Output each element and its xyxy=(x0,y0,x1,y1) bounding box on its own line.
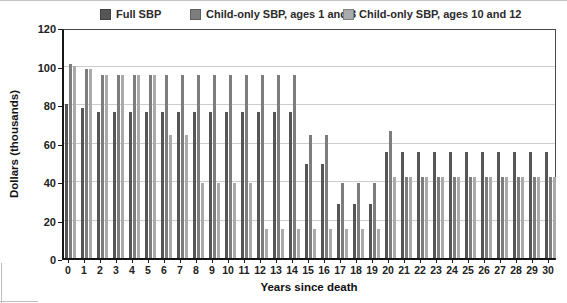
bar-year24-series0 xyxy=(449,152,452,258)
bar-year13-series2 xyxy=(281,229,284,258)
x-tick-mark-27 xyxy=(500,260,501,263)
bar-year29-series2 xyxy=(537,177,540,258)
bar-year5-series1 xyxy=(149,75,152,258)
bar-year9-series0 xyxy=(209,112,212,258)
y-tick-label-20: 20 xyxy=(24,216,56,228)
bar-year20-series0 xyxy=(385,152,388,258)
legend-item-child-10-12: Child-only SBP, ages 10 and 12 xyxy=(343,7,521,21)
bar-year16-series2 xyxy=(329,229,332,258)
bar-year15-series2 xyxy=(313,229,316,258)
x-tick-mark-23 xyxy=(436,260,437,263)
x-tick-mark-19 xyxy=(372,260,373,263)
bar-year14-series0 xyxy=(289,112,292,258)
bar-year6-series2 xyxy=(169,135,172,258)
bar-year18-series2 xyxy=(361,229,364,258)
bar-year26-series1 xyxy=(485,177,488,258)
bar-year8-series2 xyxy=(201,183,204,258)
bar-year8-series1 xyxy=(197,75,200,258)
bar-year10-series2 xyxy=(233,183,236,258)
bar-year30-series0 xyxy=(545,152,548,258)
bar-year17-series2 xyxy=(345,229,348,258)
bar-year14-series2 xyxy=(297,229,300,258)
bar-year10-series1 xyxy=(229,75,232,258)
sbp-bar-chart-figure: Full SBP Child-only SBP, ages 1 and 3 Ch… xyxy=(0,0,567,303)
bar-year2-series0 xyxy=(97,112,100,258)
x-tick-mark-18 xyxy=(356,260,357,263)
bar-year22-series1 xyxy=(421,177,424,258)
x-tick-mark-30 xyxy=(548,260,549,263)
x-tick-mark-0 xyxy=(68,260,69,263)
bar-year14-series1 xyxy=(293,75,296,258)
x-tick-mark-29 xyxy=(532,260,533,263)
bar-year21-series2 xyxy=(409,177,412,258)
bar-year24-series1 xyxy=(453,177,456,258)
bar-year24-series2 xyxy=(457,177,460,258)
bar-year25-series2 xyxy=(473,177,476,258)
x-tick-mark-22 xyxy=(420,260,421,263)
bar-year0-series2 xyxy=(73,66,76,259)
x-tick-mark-20 xyxy=(388,260,389,263)
bar-year6-series1 xyxy=(165,75,168,258)
full-sbp-swatch-icon xyxy=(100,9,111,20)
bar-year12-series2 xyxy=(265,229,268,258)
bar-year26-series2 xyxy=(489,177,492,258)
bar-year19-series2 xyxy=(377,229,380,258)
legend-label-child-10-12: Child-only SBP, ages 10 and 12 xyxy=(359,8,521,20)
y-tick-mark-0 xyxy=(58,260,62,261)
y-tick-mark-60 xyxy=(58,145,62,146)
y-tick-label-80: 80 xyxy=(24,100,56,112)
bar-year3-series0 xyxy=(113,112,116,258)
x-tick-mark-5 xyxy=(148,260,149,263)
bar-year12-series0 xyxy=(257,112,260,258)
x-tick-mark-13 xyxy=(276,260,277,263)
bar-year25-series1 xyxy=(469,177,472,258)
bar-year18-series1 xyxy=(357,183,360,258)
bar-year27-series0 xyxy=(497,152,500,258)
legend-item-full-sbp: Full SBP xyxy=(100,7,161,21)
bar-year21-series0 xyxy=(401,152,404,258)
bar-year1-series0 xyxy=(81,108,84,258)
x-tick-mark-24 xyxy=(452,260,453,263)
y-axis-title: Dollars (thousands) xyxy=(8,74,20,214)
bar-year5-series0 xyxy=(145,112,148,258)
bar-year19-series1 xyxy=(373,183,376,258)
y-tick-mark-40 xyxy=(58,183,62,184)
bar-year20-series2 xyxy=(393,177,396,258)
scan-edge-bottom xyxy=(0,301,38,302)
x-tick-mark-3 xyxy=(116,260,117,263)
bar-year27-series2 xyxy=(505,177,508,258)
bar-year11-series1 xyxy=(245,75,248,258)
bar-year30-series1 xyxy=(549,177,552,258)
bar-year28-series2 xyxy=(521,177,524,258)
legend-label-child-1-3: Child-only SBP, ages 1 and 3 xyxy=(206,8,356,20)
bar-year16-series0 xyxy=(321,164,324,258)
bar-year2-series2 xyxy=(105,75,108,258)
bar-year16-series1 xyxy=(325,135,328,258)
bar-year10-series0 xyxy=(225,112,228,258)
bar-year13-series0 xyxy=(273,112,276,258)
x-tick-mark-14 xyxy=(292,260,293,263)
x-tick-mark-10 xyxy=(228,260,229,263)
bar-year4-series0 xyxy=(129,112,132,258)
y-tick-mark-20 xyxy=(58,222,62,223)
bar-year2-series1 xyxy=(101,75,104,258)
x-tick-mark-9 xyxy=(212,260,213,263)
x-tick-mark-21 xyxy=(404,260,405,263)
x-tick-mark-28 xyxy=(516,260,517,263)
bar-year28-series0 xyxy=(513,152,516,258)
bar-year20-series1 xyxy=(389,131,392,258)
chart-legend: Full SBP Child-only SBP, ages 1 and 3 Ch… xyxy=(0,7,567,23)
x-tick-mark-2 xyxy=(100,260,101,263)
gridline-100 xyxy=(64,66,555,67)
x-tick-mark-1 xyxy=(84,260,85,263)
bar-year1-series2 xyxy=(89,69,92,258)
legend-item-child-1-3: Child-only SBP, ages 1 and 3 xyxy=(190,7,356,21)
y-tick-mark-80 xyxy=(58,106,62,107)
plot-area xyxy=(62,29,556,260)
x-tick-mark-7 xyxy=(180,260,181,263)
x-tick-mark-16 xyxy=(324,260,325,263)
x-tick-mark-25 xyxy=(468,260,469,263)
bar-year27-series1 xyxy=(501,177,504,258)
bar-year23-series0 xyxy=(433,152,436,258)
x-tick-mark-8 xyxy=(196,260,197,263)
